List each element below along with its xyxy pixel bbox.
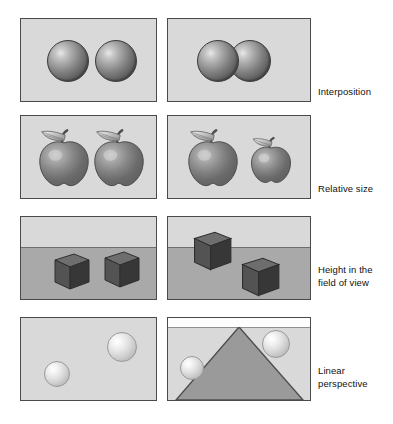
label-line: Interposition [318, 86, 393, 99]
apple-icon [33, 128, 95, 190]
sphere-dark [95, 40, 137, 82]
interposition-cue-panel [167, 18, 311, 102]
label-linear-perspective: Linear perspective [318, 365, 393, 390]
relative-size-no-cue-panel [20, 115, 157, 199]
label-line: field of view [318, 277, 393, 290]
sphere-dark-front [197, 40, 239, 82]
height-no-cue-panel [20, 216, 157, 300]
row-height-in-field-of-view: Height in the field of view [0, 216, 393, 301]
apple-icon [88, 128, 150, 190]
linear-perspective-cue-panel [167, 317, 311, 401]
label-line: Height in the [318, 264, 393, 277]
sphere-light [107, 332, 137, 362]
apple-icon-near [182, 128, 244, 190]
label-line: perspective [318, 378, 393, 391]
interposition-no-cue-panel [20, 18, 157, 102]
sphere-light [44, 361, 70, 387]
apple-icon-far [246, 136, 296, 186]
label-line: Relative size [318, 183, 393, 196]
height-cue-panel [167, 216, 311, 300]
depth-cues-figure: Interposition [0, 0, 393, 424]
cube-icon [48, 251, 90, 295]
row-linear-perspective: Linear perspective [0, 317, 393, 402]
label-height-in-field-of-view: Height in the field of view [318, 264, 393, 289]
label-relative-size: Relative size [318, 183, 393, 196]
sphere-light-far [262, 330, 290, 358]
row-interposition: Interposition [0, 18, 393, 103]
sphere-light-near [180, 356, 204, 380]
label-line: Linear [318, 365, 393, 378]
label-interposition: Interposition [318, 86, 393, 99]
sphere-dark [47, 40, 89, 82]
linear-perspective-no-cue-panel [20, 317, 157, 401]
cube-icon-far [187, 229, 232, 276]
cube-icon-near [235, 255, 280, 300]
cube-icon [98, 249, 140, 293]
relative-size-cue-panel [167, 115, 311, 199]
row-relative-size: Relative size [0, 115, 393, 200]
